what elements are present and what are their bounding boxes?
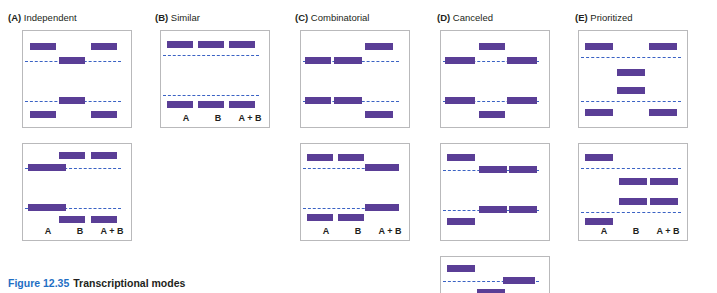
figure-number: Figure 12.35 [8, 277, 69, 289]
lane-label: B [633, 226, 640, 236]
lane-label: B [215, 113, 222, 123]
panel-d-box-2 [440, 143, 550, 241]
panel-letter: (B) [155, 12, 168, 23]
expression-bar [305, 57, 331, 64]
expression-bar [229, 101, 255, 108]
expression-bar [445, 97, 475, 104]
expression-bar [334, 97, 362, 104]
expression-bar [649, 109, 677, 116]
expression-bar [365, 43, 393, 50]
panel-e-box-1 [578, 30, 688, 128]
expression-bar [91, 216, 117, 223]
expression-bar [365, 111, 393, 118]
threshold-dashed-line [581, 101, 681, 102]
expression-bar [585, 109, 613, 116]
lane-label: A + B [239, 113, 262, 123]
panel-letter: (C) [295, 12, 308, 23]
panel-title: Similar [171, 12, 200, 23]
expression-bar [479, 111, 505, 118]
figure-title: Transcriptional modes [73, 277, 185, 289]
panel-title: Prioritized [590, 12, 632, 23]
expression-bar [59, 216, 85, 223]
threshold-dashed-line [581, 212, 681, 213]
panel-d-box-3-plot-area [441, 257, 549, 293]
panel-title: Combinatorial [311, 12, 370, 23]
panel-header-combinatorial: (C) Combinatorial [295, 12, 369, 23]
expression-bar [445, 57, 475, 64]
lane-label: B [355, 226, 362, 236]
expression-bar [334, 57, 362, 64]
panel-c-box-1-plot-area [301, 31, 409, 127]
expression-bar [91, 43, 117, 50]
panel-title: Canceled [453, 12, 493, 23]
panel-d-box-1 [440, 30, 550, 128]
lane-label: A [601, 226, 608, 236]
panel-c-box-2-lane-labels: ABA + B [300, 226, 410, 238]
panel-letter: (D) [437, 12, 450, 23]
expression-bar [167, 101, 193, 108]
panel-d-box-3 [440, 256, 550, 293]
lane-label: A [45, 226, 52, 236]
threshold-dashed-line [581, 168, 681, 169]
expression-bar [307, 154, 333, 161]
panel-d-box-2-plot-area [441, 144, 549, 240]
lane-label: A [323, 226, 330, 236]
expression-bar [198, 41, 224, 48]
panel-a-box-1-plot-area [23, 31, 131, 127]
expression-bar [59, 97, 85, 104]
panel-letter: (E) [575, 12, 588, 23]
expression-bar [619, 178, 647, 185]
expression-bar [507, 57, 537, 64]
lane-label: A [183, 113, 190, 123]
expression-bar [650, 178, 678, 185]
expression-bar [28, 204, 66, 211]
expression-bar [338, 154, 364, 161]
panel-c-box-1 [300, 30, 410, 128]
panel-a-box-1 [22, 30, 132, 128]
expression-bar [91, 152, 117, 159]
expression-bar [585, 43, 613, 50]
expression-bar [307, 214, 333, 221]
threshold-dashed-line [581, 57, 681, 58]
panel-header-similar: (B) Similar [155, 12, 200, 23]
expression-bar [365, 164, 399, 171]
lane-label: A + B [379, 226, 402, 236]
expression-bar [447, 218, 475, 225]
panel-e-box-1-plot-area [579, 31, 687, 127]
expression-bar [167, 41, 193, 48]
expression-bar [59, 152, 85, 159]
expression-bar [585, 218, 613, 225]
expression-bar [30, 43, 56, 50]
expression-bar [585, 154, 613, 161]
expression-bar [509, 166, 537, 173]
panel-header-prioritized: (E) Prioritized [575, 12, 633, 23]
expression-bar [509, 206, 537, 213]
lane-label: A + B [101, 226, 124, 236]
panel-a-box-2-lane-labels: ABA + B [22, 226, 132, 238]
panel-header-canceled: (D) Canceled [437, 12, 493, 23]
expression-bar [305, 97, 331, 104]
expression-bar [477, 289, 505, 293]
panel-b-box-1-lane-labels: ABA + B [160, 113, 270, 125]
panel-letter: (A) [8, 12, 21, 23]
expression-bar [338, 214, 364, 221]
panel-d-box-1-plot-area [441, 31, 549, 127]
expression-bar [617, 69, 645, 76]
expression-bar [619, 198, 647, 205]
threshold-dashed-line [163, 95, 259, 96]
expression-bar [649, 43, 677, 50]
expression-bar [28, 164, 66, 171]
expression-bar [503, 277, 535, 284]
expression-bar [479, 43, 505, 50]
figure-caption: Figure 12.35Transcriptional modes [8, 277, 185, 289]
expression-bar [479, 166, 507, 173]
expression-bar [447, 154, 475, 161]
expression-bar [617, 87, 645, 94]
panel-e-box-2-lane-labels: ABA + B [578, 226, 688, 238]
expression-bar [30, 111, 56, 118]
expression-bar [198, 101, 224, 108]
threshold-dashed-line [163, 55, 259, 56]
lane-label: A + B [657, 226, 680, 236]
expression-bar [59, 57, 85, 64]
expression-bar [229, 41, 255, 48]
